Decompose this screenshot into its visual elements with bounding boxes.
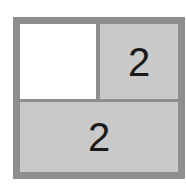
cell-top-left-empty[interactable] xyxy=(20,24,96,99)
puzzle-board: 2 2 xyxy=(13,17,185,179)
cell-top-right[interactable]: 2 xyxy=(100,24,178,99)
cell-bottom[interactable]: 2 xyxy=(20,102,178,172)
